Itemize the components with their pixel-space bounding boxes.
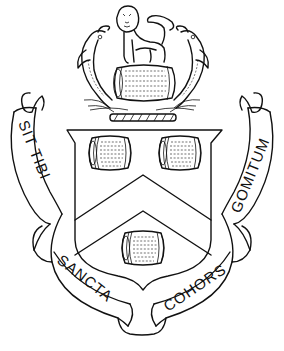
coat-of-arms: SIT TIBI GOMITUM SANCTA COHORS bbox=[0, 0, 284, 351]
dolphin-right bbox=[174, 26, 208, 108]
barrel-icon bbox=[89, 136, 131, 170]
lion bbox=[117, 6, 174, 63]
scroll-curl-left bbox=[22, 93, 44, 112]
dolphin-left bbox=[78, 26, 112, 108]
barrel-icon bbox=[122, 231, 164, 265]
barrel-icon bbox=[159, 136, 201, 170]
motto-right: GOMITUM bbox=[227, 135, 273, 215]
motto-left: SIT TIBI bbox=[15, 118, 54, 182]
crest-barrel bbox=[114, 65, 176, 101]
crest bbox=[78, 6, 209, 121]
shield bbox=[67, 130, 222, 290]
scroll-curl-right bbox=[240, 93, 262, 112]
wreath bbox=[110, 114, 176, 121]
